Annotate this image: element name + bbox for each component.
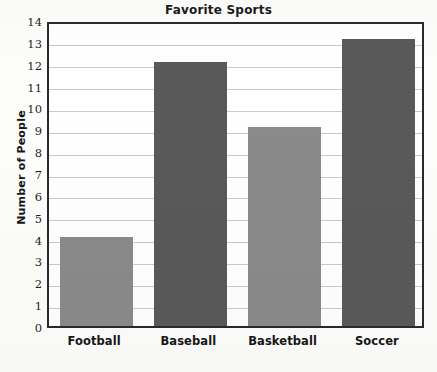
x-axis-tick-label-basketball: Basketball [236,334,330,348]
y-axis-tick-label: 13 [6,38,42,50]
bar-soccer [342,39,415,326]
bar-basketball [248,127,321,326]
y-axis-tick-label: 1 [6,300,42,312]
y-axis-tick-label: 3 [6,256,42,268]
plot-area [47,22,424,328]
bar-baseball [154,62,227,326]
x-axis-tick-label-soccer: Soccer [330,334,424,348]
y-axis-tick-label: 9 [6,125,42,137]
y-axis-tick-label: 10 [6,103,42,115]
bar-football [60,237,133,326]
y-axis-tick-label: 11 [6,82,42,94]
y-axis-tick-label: 14 [6,16,42,28]
chart-title: Favorite Sports [0,3,437,18]
y-axis-tick-label: 2 [6,278,42,290]
y-axis-tick-label: 6 [6,191,42,203]
x-axis-tick-label-baseball: Baseball [141,334,235,348]
y-axis-tick-label: 12 [6,60,42,72]
bar-chart: Favorite Sports Number of People 0123456… [0,0,437,372]
y-axis-tick-label: 7 [6,169,42,181]
y-axis-tick-label: 4 [6,235,42,247]
x-axis-tick-label-football: Football [47,334,141,348]
y-axis-tick-label: 0 [6,322,42,334]
y-axis-tick-labels: 01234567891011121314 [0,22,42,328]
y-axis-tick-label: 8 [6,147,42,159]
y-axis-tick-label: 5 [6,213,42,225]
